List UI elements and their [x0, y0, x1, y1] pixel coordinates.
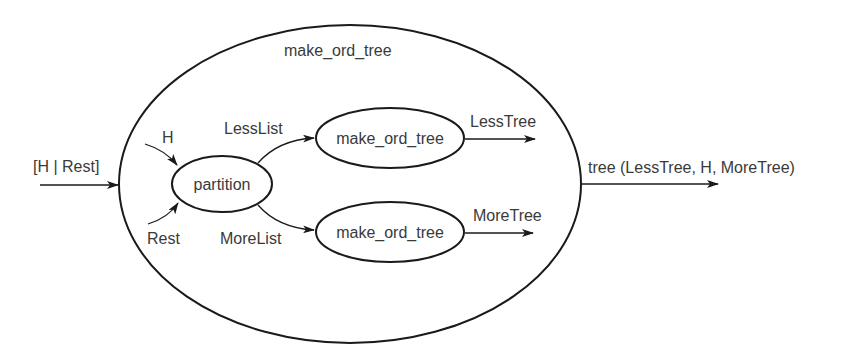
lesslist-label: LessList	[224, 120, 283, 137]
output-label: tree (LessTree, H, MoreTree)	[588, 159, 795, 176]
data-flow-diagram: make_ord_tree [H | Rest] tree (LessTree,…	[0, 0, 854, 361]
partition-label: partition	[194, 176, 251, 193]
moretree-label: MoreTree	[473, 207, 542, 224]
rest-input-arrow	[148, 203, 178, 224]
h-input-label: H	[162, 129, 174, 146]
h-input-arrow	[145, 144, 177, 165]
sub-process-label-more: make_ord_tree	[336, 224, 444, 242]
morelist-arrow	[258, 205, 314, 230]
input-label: [H | Rest]	[33, 158, 99, 175]
sub-process-label-less: make_ord_tree	[336, 130, 444, 148]
lesslist-arrow	[258, 138, 314, 163]
rest-input-label: Rest	[147, 230, 180, 247]
outer-process-label: make_ord_tree	[284, 42, 392, 60]
morelist-label: MoreList	[220, 230, 282, 247]
lesstree-label: LessTree	[470, 113, 536, 130]
outer-process-ellipse	[119, 25, 581, 343]
